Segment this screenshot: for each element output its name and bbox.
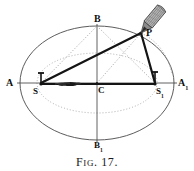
string-knot-detail: [55, 82, 81, 86]
label-minor-bottom: B1: [94, 141, 103, 152]
caption-suffix: . 17.: [94, 155, 118, 169]
label-vertex-left: A: [6, 78, 13, 88]
figure-17-ellipse-construction: A A1 S S1 B B1 C P FIG. 17.: [0, 0, 194, 171]
figure-caption: FIG. 17.: [0, 152, 194, 170]
center-point-marker: [96, 82, 98, 84]
label-focus-left: S: [33, 87, 38, 96]
caption-smallcaps: IG: [83, 158, 94, 168]
label-minor-top: B: [94, 14, 101, 24]
label-center: C: [98, 86, 105, 95]
label-focus-right-subscript: 1: [161, 93, 164, 99]
dotted-line-s-to-b: [41, 26, 97, 83]
label-vertex-right-subscript: 1: [185, 84, 188, 91]
dotted-line-c-to-p: [97, 33, 141, 83]
string-segment-s-to-p: [41, 33, 141, 83]
label-point-p: P: [146, 28, 152, 38]
label-focus-right: S1: [156, 87, 164, 98]
label-vertex-right: A1: [178, 78, 188, 90]
